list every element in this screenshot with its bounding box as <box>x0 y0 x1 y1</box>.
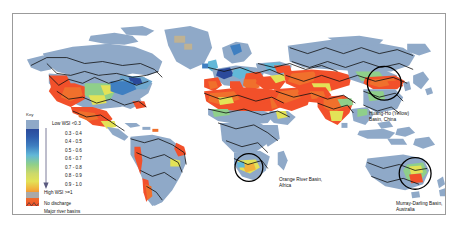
legend-label-major-river-basins: Major river basins <box>44 210 80 215</box>
legend-label-8: High WSI >=1 <box>44 191 73 196</box>
legend-label-1: 0.3 - 0.4 <box>65 132 82 137</box>
legend: Key <box>19 113 117 211</box>
callout-huang-ho: Huang-Ho (Yellow) Basin, China <box>369 111 409 123</box>
legend-label-no-discharge: No discharge <box>44 202 71 207</box>
map-frame: Huang-Ho (Yellow) Basin, China Orange Ri… <box>12 13 446 215</box>
legend-label-4: 0.6 - 0.7 <box>65 157 82 162</box>
callout-orange-river-line2: Africa <box>279 183 322 189</box>
callout-murray-darling: Murray-Darling Basin, Australia <box>396 201 442 213</box>
legend-label-7: 0.9 - 1.0 <box>65 183 82 188</box>
figure-root: Huang-Ho (Yellow) Basin, China Orange Ri… <box>0 0 460 228</box>
legend-label-2: 0.4 - 0.5 <box>65 140 82 145</box>
legend-label-5: 0.7 - 0.8 <box>65 166 82 171</box>
callout-murray-darling-line2: Australia <box>396 207 442 213</box>
callout-orange-river: Orange River Basin, Africa <box>279 177 322 189</box>
legend-label-0: Low WSI <0.3 <box>52 122 81 127</box>
legend-label-6: 0.8 - 0.9 <box>65 174 82 179</box>
legend-labels: Low WSI <0.3 0.3 - 0.4 0.4 - 0.5 0.5 - 0… <box>19 113 117 211</box>
callout-huang-ho-line2: Basin, China <box>369 117 409 123</box>
legend-label-3: 0.5 - 0.6 <box>65 149 82 154</box>
